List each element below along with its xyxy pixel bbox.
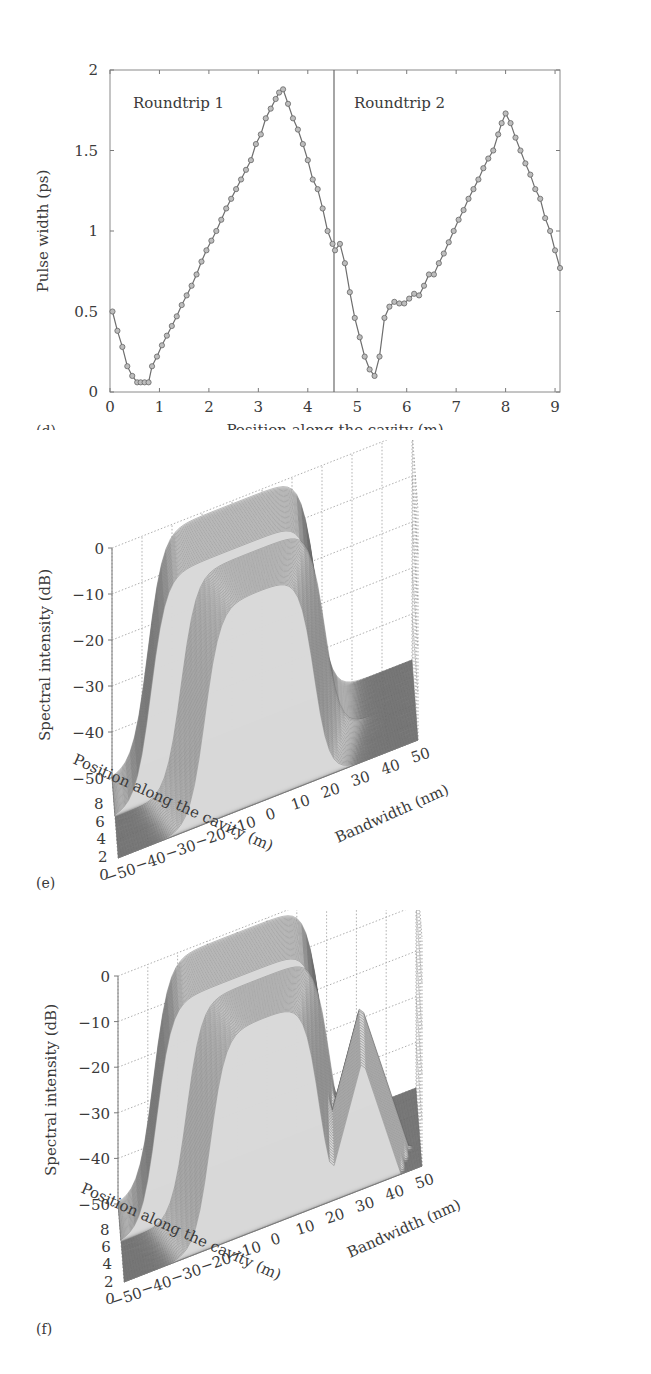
data-point-marker [491,148,496,153]
data-point-marker [407,296,412,301]
z-tick-label: −20 [78,1059,110,1077]
data-point-marker [273,96,278,101]
data-point-marker [233,187,238,192]
bandwidth-tick-label: 10 [289,791,313,814]
data-point-marker [347,290,352,295]
data-series [110,87,563,385]
data-point-marker [268,106,273,111]
data-point-marker [436,261,441,266]
data-point-marker [548,228,553,233]
data-point-marker [290,116,295,121]
spectral-surface-e: 0−10−20−30−40−50 86420 −50−40−30−20−1001… [0,440,651,910]
data-point-marker [243,167,248,172]
data-point-marker [300,141,305,146]
data-point-marker [320,206,325,211]
y-tick-label: 2 [88,61,98,79]
data-point-marker [402,301,407,306]
z-tick-label: −30 [72,678,104,696]
data-point-marker [315,187,320,192]
bandwidth-tick-label: −40 [138,1272,174,1299]
bandwidth-tick-label: 0 [263,804,278,824]
y-tick-label: 1 [88,222,98,240]
panel-label-e: (e) [36,875,55,891]
bandwidth-tick-label: 50 [413,1170,437,1193]
data-point-marker [159,343,164,348]
data-point-marker [120,344,125,349]
y-axis-ticks: 00.511.52 [74,61,560,401]
y-axis-title: Pulse width (ps) [34,170,52,293]
x-tick-label: 2 [204,398,214,416]
data-point-marker [416,293,421,298]
panel-f: 0−10−20−30−40−50 86420 −50−40−30−20−1001… [0,910,651,1374]
bandwidth-tick-label: −30 [163,836,199,863]
position-tick-label: 6 [101,1238,111,1256]
data-point-marker [337,241,342,246]
data-point-marker [451,228,456,233]
data-point-marker [189,283,194,288]
plot-frame [110,70,560,392]
data-point-marker [285,101,290,106]
bandwidth-tick-label: 30 [349,767,373,790]
data-point-marker [499,121,504,126]
position-tick-label: 8 [100,1221,110,1239]
panel-d: 0123456789 00.511.52 Roundtrip 1 Roundtr… [0,0,651,430]
data-point-marker [199,259,204,264]
x-axis-title: Position along the cavity (m) [226,421,443,430]
panel-label-d: (d) [36,423,56,430]
z-tick-label: 0 [94,540,104,558]
annotation-roundtrip-2: Roundtrip 2 [354,94,445,112]
bandwidth-tick-label: −50 [109,1284,145,1311]
data-point-marker [280,87,285,92]
x-tick-label: 0 [105,398,115,416]
data-point-marker [214,228,219,233]
y-tick-label: 0 [88,383,98,401]
data-point-marker [513,135,518,140]
z-tick-label: −40 [78,1150,110,1168]
data-point-marker [305,158,310,163]
data-point-marker [154,354,159,359]
data-point-marker [441,251,446,256]
z-axis-ticks: 0−10−20−30−40−50 [78,968,118,1214]
data-point-marker [248,158,253,163]
bandwidth-tick-label: 0 [268,1229,283,1249]
z-axis-title: Spectral intensity (dB) [36,569,54,741]
position-tick-label: 2 [98,848,108,866]
data-point-marker [377,354,382,359]
data-point-marker [125,364,130,369]
y-tick-label: 0.5 [74,303,98,321]
data-point-marker [169,323,174,328]
data-point-marker [362,354,367,359]
position-tick-label: 4 [97,830,107,848]
data-point-marker [456,217,461,222]
data-point-marker [471,187,476,192]
bandwidth-tick-label: 40 [383,1181,407,1204]
data-point-marker [412,291,417,296]
data-point-marker [486,156,491,161]
data-point-marker [253,141,258,146]
data-point-marker [538,196,543,201]
data-point-marker [446,240,451,245]
data-point-marker [174,314,179,319]
y-tick-label: 1.5 [74,142,98,160]
bandwidth-tick-label: 20 [319,779,343,802]
data-point-marker [382,315,387,320]
data-point-marker [533,187,538,192]
z-tick-label: −40 [72,724,104,742]
position-tick-label: 4 [103,1255,113,1273]
data-point-marker [431,272,436,277]
bandwidth-tick-label: 30 [353,1193,377,1216]
data-point-marker [367,367,372,372]
data-point-marker [528,172,533,177]
data-point-marker [332,248,337,253]
data-point-marker [184,293,189,298]
bandwidth-tick-label: −50 [103,860,139,887]
data-point-marker [330,241,335,246]
data-point-marker [552,248,557,253]
data-point-marker [543,216,548,221]
bandwidth-tick-label: 10 [293,1216,317,1239]
data-point-marker [496,132,501,137]
data-point-marker [146,380,151,385]
data-point-marker [164,333,169,338]
z-tick-label: −30 [78,1105,110,1123]
x-tick-label: 9 [550,398,560,416]
